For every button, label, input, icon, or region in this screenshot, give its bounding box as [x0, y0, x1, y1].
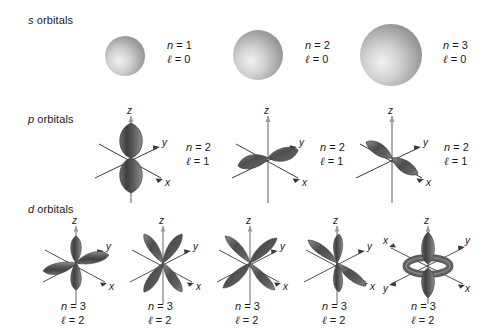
- lobe-2pz-down: [120, 158, 143, 193]
- row-label-s: s orbitals: [28, 14, 73, 26]
- axis-y-label-3dz2-pos: y: [464, 235, 471, 246]
- n-value-2s: = 2: [311, 39, 330, 51]
- quantum-label-3s: n = 3 ℓ = 0: [443, 39, 468, 66]
- axis-x-arrow-3dz2: [458, 284, 465, 288]
- l-value-3d-3: = 2: [240, 314, 259, 326]
- orbital-2py: z x y: [218, 108, 318, 208]
- axis-y-label-3d-3: y: [279, 241, 286, 252]
- orbital-1s: [105, 36, 145, 76]
- axis-z-arrow-3d-3: [248, 226, 253, 232]
- n-value-3d-2: = 3: [154, 300, 173, 312]
- orbital-3d-4: z x y: [292, 218, 382, 308]
- axis-x-arrow-3d-1: [100, 282, 107, 286]
- axis-y-label-2pz: y: [161, 137, 168, 148]
- axis-y-arrow-3d-4: [358, 249, 365, 254]
- quantum-label-3d-4: n = 3 ℓ = 2: [322, 300, 347, 327]
- l-value-2s: = 0: [310, 53, 329, 65]
- axis-y-label-2px: y: [422, 137, 429, 148]
- n-value-2px: = 2: [450, 141, 469, 153]
- lobe-2py-minus: [238, 155, 268, 169]
- axis-z-label-2px: z: [387, 105, 393, 116]
- orbital-3s: [360, 24, 422, 86]
- quantum-label-3d-1: n = 3 ℓ = 2: [61, 300, 86, 327]
- axis-x-label-2pz: x: [164, 177, 171, 188]
- axis-x-label-3d-4: x: [369, 281, 376, 292]
- axis-x-arrow-2px: [417, 178, 425, 183]
- axis-z-label-2py: z: [263, 105, 269, 116]
- n-value-3d-3: = 3: [241, 300, 260, 312]
- quantum-label-3d-2: n = 3 ℓ = 2: [148, 300, 173, 327]
- axis-x-label-3dz2-pos: x: [464, 283, 471, 294]
- axis-z-label-3dz2: z: [423, 215, 429, 226]
- orbital-2s: [233, 30, 283, 80]
- axis-z-arrow-3d-4: [335, 226, 340, 232]
- axis-x-arrow-2py: [293, 178, 301, 183]
- axis-y-arrow-3dz2: [458, 246, 465, 251]
- lobes-3d-1: [43, 236, 109, 290]
- axis-y-arrow-2pz: [153, 145, 160, 150]
- axis-x-label-3d-2: x: [195, 281, 202, 292]
- orbital-2px: z x y: [342, 108, 442, 208]
- row-label-d: d orbitals: [28, 203, 74, 215]
- l-value-3dz2: = 2: [416, 314, 435, 326]
- axis-y-arrow-3d-3: [271, 249, 278, 254]
- n-value-3s: = 3: [449, 39, 468, 51]
- axis-x-arrow-2pz: [156, 178, 164, 183]
- lobes-3d-4: [308, 234, 366, 292]
- axis-x-label-2px: x: [425, 177, 432, 188]
- orbital-3d-1: z x y: [31, 218, 121, 308]
- axis-y-label-3d-2: y: [192, 241, 199, 252]
- axis-z-arrow-2px: [389, 116, 394, 122]
- quantum-label-2s: n = 2 ℓ = 0: [305, 39, 330, 66]
- axis-y-arrow-2px: [414, 145, 421, 150]
- l-value-2pz: = 1: [191, 155, 210, 167]
- n-value-3d-4: = 3: [328, 300, 347, 312]
- axis-x-arrow-3d-3: [274, 282, 281, 286]
- axis-z-label-3d-4: z: [332, 215, 338, 226]
- row-label-s-text: orbitals: [34, 14, 73, 26]
- l-value-2px: = 1: [449, 155, 468, 167]
- sphere-3s: [360, 24, 422, 86]
- l-value-3s: = 0: [448, 53, 467, 65]
- lobe-3dz2-down: [422, 268, 435, 298]
- lobe-2px-plus: [392, 158, 418, 175]
- axis-z-label-2pz: z: [126, 105, 132, 116]
- axis-x-label-2py: x: [301, 177, 308, 188]
- l-value-3d-4: = 2: [327, 314, 346, 326]
- axis-y-arrow-neg-3dz2: [389, 282, 396, 287]
- axis-x-arrow-neg-3dz2: [389, 243, 396, 247]
- sphere-1s: [105, 36, 145, 76]
- lobe-2py-plus: [268, 147, 298, 161]
- axis-y-arrow-3d-2: [184, 249, 191, 254]
- axis-x-arrow-3d-2: [187, 282, 194, 286]
- l-value-1s: = 0: [172, 53, 191, 65]
- axis-y-label-3d-4: y: [366, 241, 373, 252]
- quantum-label-3d-3: n = 3 ℓ = 2: [235, 300, 260, 327]
- axis-z-arrow-2py: [265, 116, 270, 122]
- orbital-3dz2: z x x y y: [383, 218, 473, 308]
- n-value-3d-1: = 3: [67, 300, 86, 312]
- n-value-2pz: = 2: [192, 141, 211, 153]
- axis-z-arrow-3dz2: [426, 226, 431, 232]
- orbital-3d-2: z x y: [118, 218, 208, 308]
- axis-y-label-3d-1: y: [105, 241, 112, 252]
- axis-y-label-3dz2-neg: y: [382, 283, 389, 294]
- quantum-label-3dz2: n = 3 ℓ = 2: [411, 300, 436, 327]
- l-value-3d-1: = 2: [66, 314, 85, 326]
- quantum-label-1s: n = 1 ℓ = 0: [167, 39, 192, 66]
- axis-z-arrow-3d-1: [74, 226, 79, 232]
- sphere-2s: [233, 30, 283, 80]
- axis-y-label-2py: y: [298, 137, 305, 148]
- n-value-1s: = 1: [173, 39, 192, 51]
- quantum-label-2px: n = 2 ℓ = 1: [444, 141, 469, 168]
- orbital-shapes-figure: s orbitals p orbitals d orbitals n = 1 ℓ…: [0, 0, 495, 335]
- axis-x-label-3d-3: x: [282, 281, 289, 292]
- row-label-p: p orbitals: [28, 113, 74, 125]
- axis-z-label-3d-2: z: [158, 215, 164, 226]
- axis-z-arrow-2pz: [128, 116, 133, 122]
- row-label-p-text: orbitals: [34, 113, 73, 125]
- n-value-3dz2: = 3: [417, 300, 436, 312]
- l-value-2py: = 1: [325, 155, 344, 167]
- axis-z-arrow-3d-2: [161, 226, 166, 232]
- orbital-2pz: z x y: [81, 108, 181, 208]
